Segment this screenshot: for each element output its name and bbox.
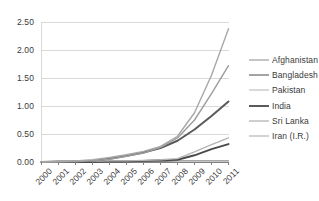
series-line [42, 29, 229, 162]
legend-item: Bangladesh [249, 67, 319, 82]
legend-label: Bangladesh [272, 70, 318, 80]
legend-line-swatch-icon [249, 55, 269, 65]
y-axis-tick-label: 0.50 [6, 129, 34, 139]
legend-label: Iran (I.R.) [272, 131, 309, 141]
y-axis-tick-label: 2.00 [6, 45, 34, 55]
legend-label: Pakistan [272, 85, 305, 95]
line-chart: 0.000.501.001.502.002.50 200020012002200… [0, 0, 319, 201]
gridlines [42, 22, 229, 162]
series-line [42, 66, 229, 162]
y-axis-tick-label: 1.50 [6, 73, 34, 83]
legend-item: India [249, 98, 319, 113]
chart-legend: AfghanistanBangladeshPakistanIndiaSri La… [249, 52, 319, 144]
y-axis-tick-label: 2.50 [6, 17, 34, 27]
axis-lines [42, 22, 229, 162]
series-lines [42, 29, 229, 162]
y-axis-tick-label: 0.00 [6, 157, 34, 167]
legend-line-swatch-icon [249, 116, 269, 126]
legend-item: Sri Lanka [249, 113, 319, 128]
legend-line-swatch-icon [249, 85, 269, 95]
legend-line-swatch-icon [249, 70, 269, 80]
legend-item: Iran (I.R.) [249, 128, 319, 143]
legend-line-swatch-icon [249, 131, 269, 141]
legend-label: Afghanistan [272, 55, 318, 65]
legend-line-swatch-icon [249, 101, 269, 111]
series-line [42, 138, 229, 162]
legend-item: Pakistan [249, 83, 319, 98]
legend-label: Sri Lanka [272, 116, 309, 126]
legend-item: Afghanistan [249, 52, 319, 67]
y-axis-tick-label: 1.00 [6, 101, 34, 111]
legend-label: India [272, 101, 291, 111]
